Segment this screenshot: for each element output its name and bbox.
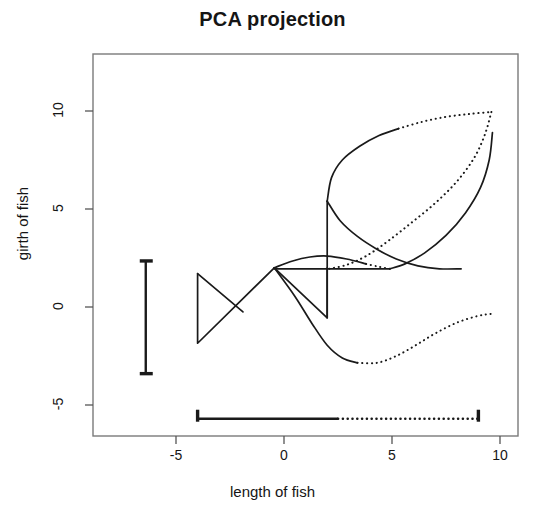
axis-ticks <box>85 111 500 444</box>
plot-border <box>93 54 518 436</box>
fish-tail-cross <box>198 274 243 312</box>
plot-box <box>93 54 518 436</box>
y-tick-label: 10 <box>50 90 66 130</box>
x-tick-label: -5 <box>156 447 196 463</box>
plot-canvas <box>0 0 545 519</box>
y-tick-label: -5 <box>50 384 66 424</box>
leaf-upper-solid <box>327 129 398 202</box>
pca-projection-figure: PCA projection -50510 -50510 length of f… <box>0 0 545 519</box>
x-tick-label: 10 <box>480 447 520 463</box>
x-axis-label: length of fish <box>0 483 545 500</box>
fish-body-lower-solid <box>274 268 357 363</box>
y-tick-label: 5 <box>50 188 66 228</box>
y-tick-label: 0 <box>50 286 66 326</box>
data-series-layer <box>198 112 493 363</box>
y-axis-label: girth of fish <box>14 164 31 284</box>
x-tick-label: 0 <box>264 447 304 463</box>
fish-fin-triangle <box>274 268 327 318</box>
leaf-right-dotted <box>329 112 491 269</box>
fish-body-lower-dotted <box>357 314 491 364</box>
annotation-layer <box>140 261 479 422</box>
leaf-upper-dotted <box>398 112 491 129</box>
x-tick-label: 5 <box>372 447 412 463</box>
